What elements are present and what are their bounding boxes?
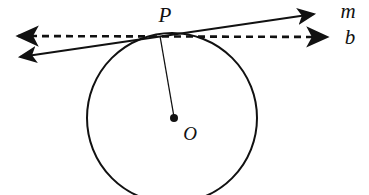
label-point-p: P <box>158 3 172 27</box>
label-line-b: b <box>345 25 356 49</box>
geometry-diagram: P m b O <box>0 0 369 195</box>
label-line-m: m <box>340 0 355 23</box>
label-center-o: O <box>183 123 197 144</box>
line-b-dashed <box>18 36 327 37</box>
circle-o <box>87 33 257 195</box>
center-point-dot <box>170 114 178 122</box>
radius-segment-po <box>160 36 174 117</box>
